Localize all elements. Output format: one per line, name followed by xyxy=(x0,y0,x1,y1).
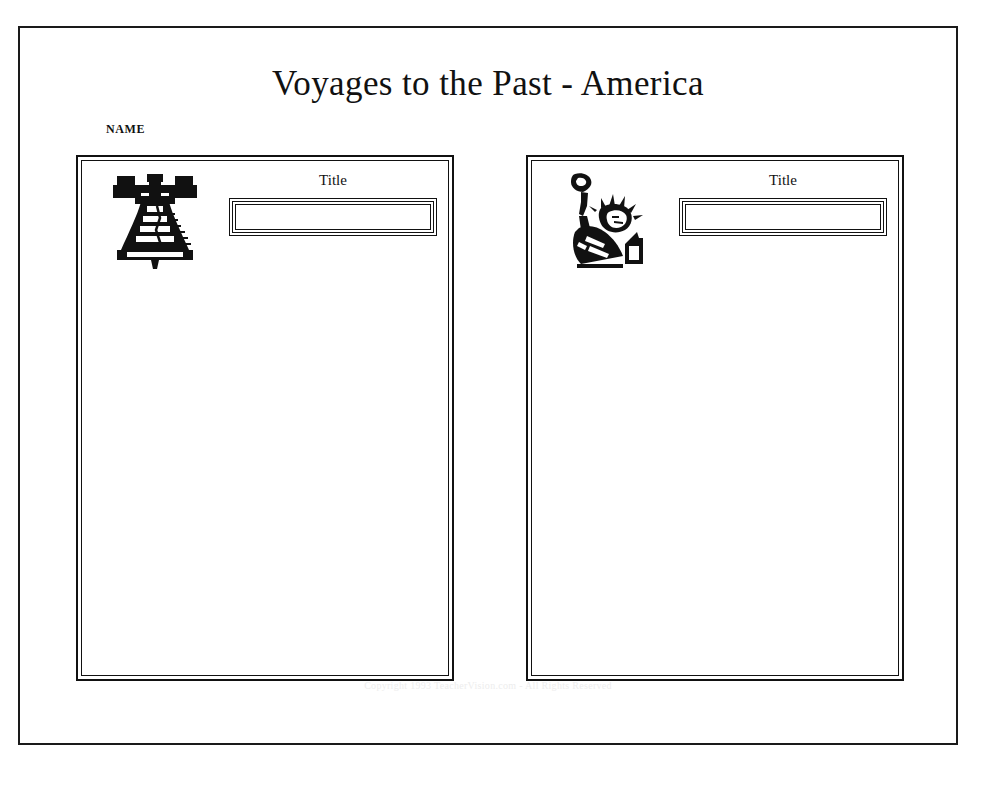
panels-row: Title xyxy=(76,155,904,681)
title-input[interactable] xyxy=(685,204,881,230)
panel-head-left: Title xyxy=(85,164,445,272)
statue-of-liberty-icon xyxy=(557,172,653,272)
title-block-right: Title xyxy=(679,172,887,236)
page-title: Voyages to the Past - America xyxy=(20,66,956,101)
name-label: NAME xyxy=(106,122,145,137)
title-block-left: Title xyxy=(229,172,437,236)
worksheet-page: Voyages to the Past - America NAME xyxy=(18,26,958,745)
title-field-frame xyxy=(679,198,887,236)
panel-content-left: Title xyxy=(85,164,445,672)
writing-area-left[interactable] xyxy=(85,272,445,672)
title-caption: Title xyxy=(679,172,887,189)
panel-head-right: Title xyxy=(535,164,895,272)
title-input[interactable] xyxy=(235,204,431,230)
liberty-bell-icon xyxy=(107,172,203,272)
worksheet-panel-left: Title xyxy=(76,155,454,681)
panel-content-right: Title xyxy=(535,164,895,672)
writing-area-right[interactable] xyxy=(535,272,895,672)
title-field-frame-inner xyxy=(682,201,884,233)
title-field-frame-inner xyxy=(232,201,434,233)
title-field-frame xyxy=(229,198,437,236)
worksheet-panel-right: Title xyxy=(526,155,904,681)
page-header: Voyages to the Past - America NAME xyxy=(20,28,956,146)
title-caption: Title xyxy=(229,172,437,189)
copyright-footer: Copyright 1993 TeacherVision.com - All R… xyxy=(20,680,956,691)
